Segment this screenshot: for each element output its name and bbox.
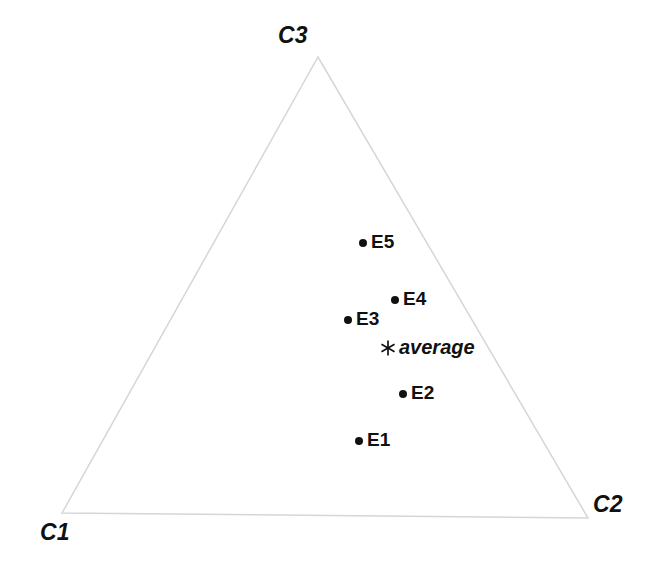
corner-label-c2: C2 [593, 493, 623, 516]
point-marker-icon [359, 239, 367, 247]
data-point-label: E2 [411, 383, 434, 404]
corner-label-c3: C3 [278, 24, 308, 47]
data-point-label: E3 [356, 309, 379, 330]
data-point-label: E5 [371, 232, 394, 253]
point-marker-icon [344, 316, 352, 324]
data-point-label: E1 [367, 430, 390, 451]
data-point-label: E4 [403, 289, 426, 310]
point-marker-icon [391, 296, 399, 304]
point-marker-icon [355, 437, 363, 445]
average-point-label: average [399, 336, 475, 358]
ternary-diagram-figure: C3 C1 C2 E5 E4 E3 E2 E1 average [0, 0, 669, 586]
ternary-triangle-outline [0, 0, 669, 586]
corner-label-c1: C1 [40, 521, 70, 544]
point-marker-icon [399, 390, 407, 398]
asterisk-icon [379, 339, 397, 357]
triangle-shape [62, 57, 588, 518]
